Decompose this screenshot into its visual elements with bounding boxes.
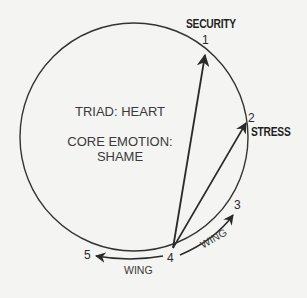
point-4-number: 4: [167, 251, 174, 265]
point-5-number: 5: [84, 248, 91, 262]
point-2-number: 2: [248, 111, 255, 125]
security-label: SECURITY: [186, 17, 236, 31]
wing-left-label: WING: [124, 264, 153, 276]
point-1-number: 1: [202, 33, 209, 47]
core-emotion-label: CORE EMOTION:: [60, 134, 180, 149]
triad-label: TRIAD: HEART: [70, 104, 170, 119]
stress-label: STRESS: [251, 125, 291, 139]
point-3-number: 3: [234, 198, 241, 212]
wing-arrow-to-5: [96, 256, 163, 259]
core-emotion-value: SHAME: [60, 149, 180, 164]
